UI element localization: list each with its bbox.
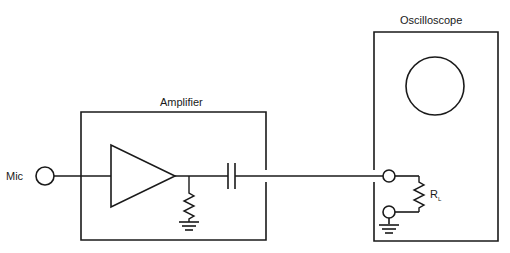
- scope-input-terminal: [383, 170, 395, 182]
- ground-icon: [379, 225, 399, 233]
- oscilloscope-label: Oscilloscope: [400, 14, 462, 26]
- load-resistor-label: RL: [430, 188, 442, 202]
- oscilloscope-box: [374, 32, 498, 241]
- mic-label: Mic: [6, 170, 24, 182]
- oscilloscope-screen: [406, 57, 464, 115]
- amplifier-triangle: [111, 145, 175, 207]
- ground-icon: [179, 222, 199, 230]
- shunt-resistor: [184, 176, 194, 222]
- scope-ground-terminal: [383, 206, 395, 218]
- coupling-capacitor: [228, 163, 235, 189]
- mic-terminal: [36, 167, 54, 185]
- circuit-diagram: Mic Amplifier Oscilloscope RL: [0, 0, 510, 253]
- load-resistor: [414, 176, 424, 212]
- amplifier-label: Amplifier: [160, 96, 203, 108]
